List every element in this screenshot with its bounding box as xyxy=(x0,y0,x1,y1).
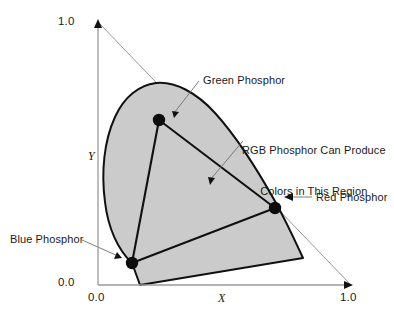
x-axis-max-tick-label: 1.0 xyxy=(340,291,357,305)
gamut-region-label: RGB Phosphor Can Produce Colors in This … xyxy=(242,116,386,226)
green-phosphor-label: Green Phosphor xyxy=(203,74,285,87)
blue-phosphor-point xyxy=(126,257,138,269)
red-phosphor-label: Red Phosphor xyxy=(316,191,388,204)
x-axis-title: X xyxy=(218,291,226,305)
green-phosphor-point xyxy=(153,114,165,126)
y-axis-min-tick-label: 0.0 xyxy=(58,276,75,290)
blue-phosphor-leader-line xyxy=(82,240,118,256)
x-axis-min-tick-label: 0.0 xyxy=(88,291,105,305)
gamut-region-label-line-1: RGB Phosphor Can Produce xyxy=(242,144,386,158)
y-axis-max-tick-label: 1.0 xyxy=(58,15,75,29)
y-axis-arrowhead xyxy=(94,19,102,28)
chromaticity-figure: 1.0 0.0 0.0 1.0 Y X Green Phosphor RGB P… xyxy=(0,0,394,317)
blue-phosphor-arrowhead xyxy=(114,252,122,259)
blue-phosphor-label: Blue Phosphor xyxy=(10,233,83,246)
y-axis-title: Y xyxy=(88,149,95,163)
